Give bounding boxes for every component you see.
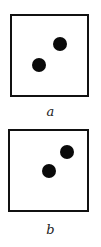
figure-label-a: a [0, 104, 101, 119]
dot-b-1 [60, 145, 74, 159]
dot-b-2 [42, 164, 56, 178]
dot-a-2 [32, 58, 46, 72]
figure-label-b: b [0, 222, 101, 237]
square-frame-a [10, 14, 89, 97]
dot-a-1 [53, 37, 67, 51]
